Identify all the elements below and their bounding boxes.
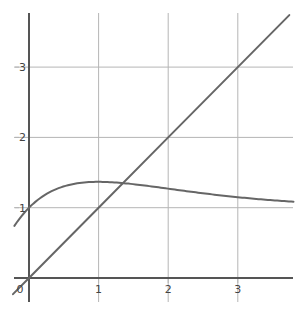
y-tick-label-2: 2 — [19, 131, 26, 144]
x-tick-label-2: 2 — [165, 283, 172, 296]
chart-plot: 0123123 — [0, 0, 305, 314]
x-tick-label-1: 1 — [95, 283, 102, 296]
y-tick-label-1: 1 — [19, 202, 26, 215]
x-tick-label-0: 0 — [17, 283, 24, 296]
line-series — [13, 15, 289, 294]
y-tick-label-3: 3 — [19, 61, 26, 74]
curve-series — [14, 182, 293, 226]
x-tick-label-3: 3 — [234, 283, 241, 296]
series-group — [13, 15, 293, 294]
grid-lines — [14, 13, 293, 302]
axes — [14, 13, 293, 302]
